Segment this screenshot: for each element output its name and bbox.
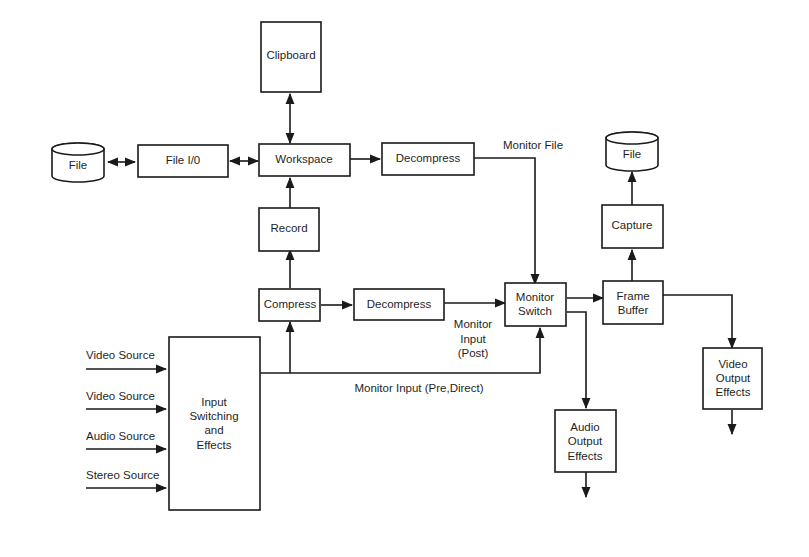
monitor-input-post-label-2: Input bbox=[460, 333, 486, 345]
monitor-input-pre-direct-label: Monitor Input (Pre,Direct) bbox=[354, 382, 483, 394]
workspace-node: Workspace bbox=[259, 144, 350, 176]
file-right-node: File bbox=[606, 132, 658, 171]
compress-label: Compress bbox=[264, 298, 317, 310]
file-left-label: File bbox=[69, 159, 88, 171]
record-node: Record bbox=[259, 208, 319, 251]
frame-buffer-label-2: Buffer bbox=[618, 304, 649, 316]
monitor-input-post-label-3: (Post) bbox=[458, 347, 489, 359]
decompress-top-node: Decompress bbox=[382, 143, 474, 175]
clipboard-label: Clipboard bbox=[266, 49, 315, 61]
input-switching-label-1: Input bbox=[201, 396, 227, 408]
source-label-2: Video Source bbox=[86, 390, 155, 402]
audio-output-label-2: Output bbox=[568, 435, 603, 447]
edge-switch-audio-output bbox=[567, 312, 586, 408]
edge-monitor-input-pre-direct bbox=[260, 328, 540, 373]
video-output-label-2: Output bbox=[716, 372, 751, 384]
audio-output-effects-node: Audio Output Effects bbox=[555, 410, 616, 472]
input-switching-label-3: and bbox=[204, 424, 223, 436]
workspace-label: Workspace bbox=[275, 153, 332, 165]
source-label-4: Stereo Source bbox=[86, 469, 160, 481]
video-output-label-1: Video bbox=[718, 358, 747, 370]
monitor-file-label: Monitor File bbox=[503, 139, 563, 151]
source-label-1: Video Source bbox=[86, 349, 155, 361]
signal-flow-diagram: File File Clipboard File I/0 Workspace D… bbox=[0, 0, 809, 557]
file-left-node: File bbox=[52, 143, 104, 182]
frame-buffer-node: Frame Buffer bbox=[603, 281, 663, 324]
input-switching-label-4: Effects bbox=[197, 439, 232, 451]
decompress-top-label: Decompress bbox=[396, 152, 461, 164]
frame-buffer-label-1: Frame bbox=[616, 290, 649, 302]
clipboard-node: Clipboard bbox=[261, 22, 321, 92]
decompress-mid-node: Decompress bbox=[354, 289, 444, 320]
record-label: Record bbox=[270, 222, 307, 234]
file-right-label: File bbox=[623, 148, 642, 160]
file-io-label: File I/0 bbox=[166, 154, 201, 166]
video-output-effects-node: Video Output Effects bbox=[703, 348, 762, 409]
audio-output-label-1: Audio bbox=[570, 421, 599, 433]
capture-label: Capture bbox=[612, 219, 653, 231]
audio-output-label-3: Effects bbox=[568, 450, 603, 462]
edge-monitor-file bbox=[474, 158, 535, 284]
capture-node: Capture bbox=[602, 205, 663, 248]
compress-node: Compress bbox=[259, 289, 320, 321]
input-switching-label-2: Switching bbox=[189, 410, 238, 422]
monitor-input-post-label-1: Monitor bbox=[454, 318, 493, 330]
edge-framebuffer-video-output bbox=[662, 295, 732, 348]
monitor-switch-label-1: Monitor bbox=[516, 291, 555, 303]
video-output-label-3: Effects bbox=[716, 386, 751, 398]
monitor-switch-label-2: Switch bbox=[518, 305, 552, 317]
source-label-3: Audio Source bbox=[86, 430, 155, 442]
input-switching-node: Input Switching and Effects bbox=[169, 337, 260, 510]
decompress-mid-label: Decompress bbox=[367, 298, 432, 310]
file-io-node: File I/0 bbox=[138, 145, 228, 177]
monitor-switch-node: Monitor Switch bbox=[505, 283, 566, 326]
